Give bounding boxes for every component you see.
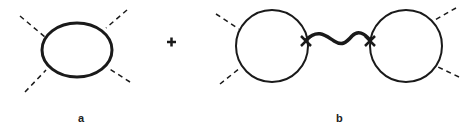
diagram-canvas: a b xyxy=(0,0,476,130)
leg-a-top-left xyxy=(20,16,45,37)
leg-b-bottom-left xyxy=(220,68,240,84)
leg-b-top-right xyxy=(433,8,456,21)
loop-b-left xyxy=(236,10,308,82)
leg-a-bottom-right xyxy=(108,68,130,82)
loop-a xyxy=(42,23,112,77)
diagram-b xyxy=(216,8,459,84)
leg-b-top-left xyxy=(216,14,239,29)
feynman-diagram-svg xyxy=(0,0,476,130)
panel-label-a: a xyxy=(78,112,84,124)
leg-a-top-right xyxy=(106,10,127,28)
wavy-propagator xyxy=(306,33,370,44)
leg-b-bottom-right xyxy=(436,66,459,77)
leg-a-bottom-left xyxy=(25,70,46,92)
loop-b-right xyxy=(370,10,442,82)
plus-operator xyxy=(167,38,176,47)
panel-label-b: b xyxy=(336,112,343,124)
diagram-a xyxy=(20,10,130,92)
